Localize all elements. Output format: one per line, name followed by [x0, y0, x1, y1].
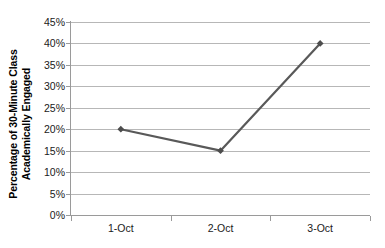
- series-line-group: [0, 0, 385, 248]
- data-point-marker: [117, 126, 124, 133]
- series-line: [121, 43, 320, 150]
- line-chart: Percentage of 30-Minute Class Academical…: [0, 0, 385, 248]
